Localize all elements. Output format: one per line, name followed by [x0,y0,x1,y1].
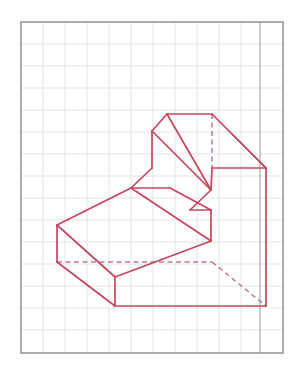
visible-edges [57,114,266,306]
drawing-sheet: Kavalierperspektive [0,0,299,375]
technical-drawing-canvas [0,0,299,375]
drawing-title-label: Kavalierperspektive [298,0,299,26]
